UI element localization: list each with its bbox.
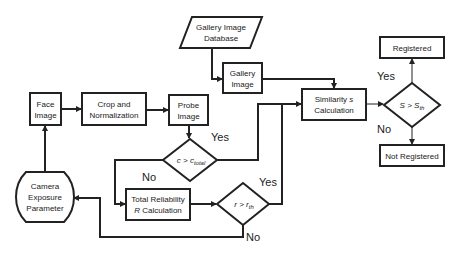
s-no-label: No [377,123,391,135]
r-yes-label: Yes [259,176,277,188]
edge-gallery-to-similarity [263,79,334,88]
crop-label-line2: Normalization [90,111,139,120]
similarity-label-line1: Similarity s [315,95,354,104]
node-gallery-image: Gallery Image [223,63,262,93]
face-image-label-line1: Face [37,100,55,109]
node-c-decision: c > ctotal [163,139,217,181]
edge-r-yes-to-similarity [269,104,282,204]
c-yes-label: Yes [211,131,229,143]
node-not-registered: Not Registered [380,145,444,166]
node-face-image: Face Image [30,93,61,125]
c-no-label: No [142,171,156,183]
probe-label-line2: Image [177,112,200,121]
camera-label-line2: Exposure [28,193,62,202]
camera-label-line1: Camera [31,182,60,191]
crop-label-line1: Crop and [98,100,131,109]
camera-label-line3: Parameter [26,204,64,213]
face-image-label-line2: Image [34,111,57,120]
not-registered-label: Not Registered [385,152,438,161]
registered-label: Registered [393,44,432,53]
node-s-decision: S > Sth [384,83,440,127]
reliability-label-line2: R Calculation [134,206,182,215]
gallery-image-label-line2: Image [231,80,254,89]
r-no-label: No [246,231,260,243]
similarity-label-line2: Calculation [314,106,354,115]
gallery-image-label-line1: Gallery [230,69,255,78]
node-crop-normalization: Crop and Normalization [82,93,146,125]
probe-label-line1: Probe [178,101,200,110]
node-probe-image: Probe Image [169,95,208,125]
gallery-db-label-line2: Database [204,34,239,43]
flowchart-canvas: Face Image Crop and Normalization Probe … [0,0,462,255]
node-total-reliability: Total Reliability R Calculation [126,189,190,220]
s-yes-label: Yes [377,70,395,82]
reliability-label-line1: Total Reliability [131,195,184,204]
edge-db-to-gallery-image [212,49,222,79]
node-gallery-database: Gallery Image Database [180,17,262,48]
node-registered: Registered [380,37,444,58]
node-camera-exposure: Camera Exposure Parameter [16,172,74,222]
gallery-db-label-line1: Gallery Image [196,23,246,32]
node-similarity-calculation: Similarity s Calculation [302,89,366,120]
edge-c-yes-to-similarity [217,104,301,160]
node-r-decision: r > rth [217,183,269,225]
